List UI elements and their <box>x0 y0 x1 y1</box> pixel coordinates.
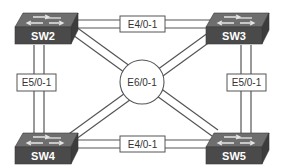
switch-sw5[interactable]: SW5 <box>206 133 269 164</box>
switch-label: SW2 <box>31 30 55 42</box>
e5-right-label-text: E5/0-1 <box>232 77 262 88</box>
etherchannel-e5-right-label: E5/0-1 <box>227 74 266 91</box>
etherchannel-e4-top-label: E4/0-1 <box>120 16 165 32</box>
switch-sw3[interactable]: SW3 <box>206 13 269 44</box>
switch-sw4[interactable]: SW4 <box>15 133 78 164</box>
e4-top-label-text: E4/0-1 <box>128 19 158 30</box>
switch-label: SW5 <box>222 150 246 162</box>
e4-bottom-label-text: E4/0-1 <box>128 139 158 150</box>
etherchannel-e6-label: E6/0-1 <box>120 60 164 104</box>
etherchannel-e4-bottom-label: E4/0-1 <box>120 136 165 152</box>
e6-label-text: E6/0-1 <box>127 77 157 88</box>
etherchannel-e5-left-label: E5/0-1 <box>17 74 56 91</box>
switch-sw2[interactable]: SW2 <box>15 13 78 44</box>
e5-left-label-text: E5/0-1 <box>22 77 52 88</box>
switch-label: SW4 <box>31 150 56 162</box>
network-topology-diagram: E6/0-1 E4/0-1 E4/0-1 E5/0-1 E5/0-1 SW2 <box>0 0 284 168</box>
switch-label: SW3 <box>222 30 246 42</box>
